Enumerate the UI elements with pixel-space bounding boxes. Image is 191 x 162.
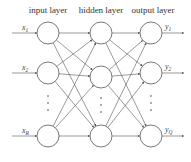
- ellipsis-dot: [100, 111, 102, 113]
- connection-edge: [56, 40, 92, 70]
- connection-edge: [55, 85, 93, 128]
- connection-edge: [112, 74, 140, 76]
- ellipsis-dots: [47, 95, 152, 113]
- ellipsis-dot: [47, 109, 49, 111]
- input-layer-header: input layer: [29, 5, 68, 15]
- hidden-neuron: [90, 66, 112, 88]
- connection-edge: [110, 40, 143, 66]
- ellipsis-dot: [150, 95, 152, 97]
- connection-edge: [108, 82, 144, 128]
- hidden-neuron: [90, 22, 112, 44]
- output-neuron: [140, 125, 162, 147]
- output-label: yQ: [164, 125, 173, 135]
- input-neuron: [37, 62, 59, 84]
- connection-edge: [59, 74, 90, 76]
- connection-edge: [57, 40, 92, 67]
- output-layer-header: output layer: [131, 5, 174, 15]
- ellipsis-dot: [47, 102, 49, 104]
- output-label: y1: [164, 22, 172, 32]
- output-label: y2: [164, 62, 172, 72]
- input-label: x1: [21, 23, 29, 33]
- ellipsis-dot: [47, 95, 49, 97]
- connection-edge: [109, 40, 142, 69]
- input-neuron: [37, 22, 59, 44]
- hidden-layer-header: hidden layer: [79, 5, 124, 15]
- input-neuron: [37, 125, 59, 147]
- neural-network-diagram: x1x2xRy1y2yQ input layer hidden layer ou…: [0, 0, 191, 162]
- input-label: xR: [21, 126, 30, 136]
- connection-edge: [55, 81, 94, 127]
- ellipsis-dot: [100, 104, 102, 106]
- connection-edge: [108, 85, 144, 127]
- hidden-neuron: [90, 125, 112, 147]
- nodes: [37, 22, 162, 147]
- output-neuron: [140, 22, 162, 44]
- input-label: x2: [21, 63, 29, 73]
- ellipsis-dot: [100, 97, 102, 99]
- ellipsis-dot: [150, 109, 152, 111]
- output-neuron: [140, 62, 162, 84]
- ellipsis-dot: [150, 102, 152, 104]
